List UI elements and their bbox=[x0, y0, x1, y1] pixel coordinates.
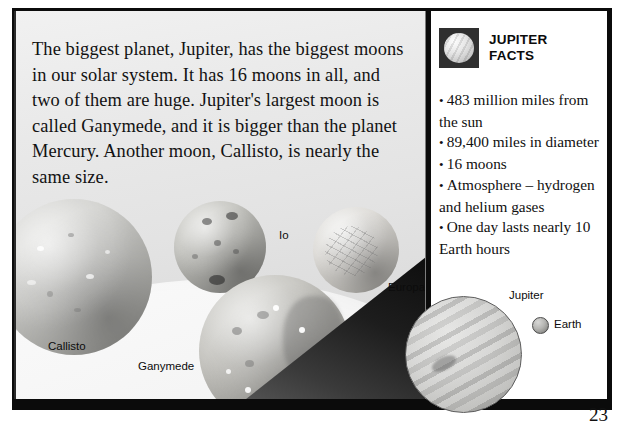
bright-crater bbox=[299, 327, 305, 333]
jupiter-planet-icon bbox=[439, 28, 479, 68]
great-red-spot bbox=[430, 352, 459, 375]
list-item: One day lasts nearly 10 Earth hours bbox=[439, 217, 603, 259]
volcano-spot bbox=[233, 249, 239, 254]
facts-header: JUPITER FACTS bbox=[439, 28, 547, 68]
book-page-spread: Jupiter's biggest moons The biggest plan… bbox=[0, 0, 620, 431]
facts-list: 483 million miles from the sun 89,400 mi… bbox=[439, 90, 603, 259]
moons-photo-panel: The biggest planet, Jupiter, has the big… bbox=[14, 11, 426, 399]
cropped-page-title: Jupiter's biggest moons bbox=[0, 0, 620, 7]
facts-title: JUPITER FACTS bbox=[489, 32, 547, 64]
earth-size-comparison-image bbox=[532, 317, 549, 334]
europa-crack-texture bbox=[325, 226, 378, 276]
crater-dark bbox=[245, 360, 254, 367]
jupiter-size-comparison-image bbox=[405, 296, 522, 413]
moon-label-io: Io bbox=[279, 229, 289, 241]
moon-label-europa: Europa bbox=[388, 281, 425, 293]
facts-title-line1: JUPITER bbox=[489, 32, 547, 48]
comparison-label-earth: Earth bbox=[554, 318, 582, 330]
list-item: 89,400 miles in diameter bbox=[439, 132, 603, 154]
list-item: 16 moons bbox=[439, 154, 603, 176]
volcano-spot bbox=[226, 212, 238, 220]
moon-label-callisto: Callisto bbox=[48, 340, 86, 352]
crater-highlight bbox=[37, 246, 44, 251]
jupiter-icon-sphere bbox=[444, 33, 474, 63]
page-number: 23 bbox=[589, 404, 608, 426]
intro-paragraph: The biggest planet, Jupiter, has the big… bbox=[32, 37, 410, 190]
moon-europa-image bbox=[313, 207, 399, 293]
volcano-spot bbox=[202, 218, 212, 225]
moon-label-ganymede: Ganymede bbox=[138, 360, 194, 372]
list-item: 483 million miles from the sun bbox=[439, 90, 603, 132]
volcano-spot bbox=[209, 275, 225, 285]
facts-title-line2: FACTS bbox=[489, 48, 547, 64]
comparison-label-jupiter: Jupiter bbox=[509, 289, 544, 301]
list-item: Atmosphere – hydrogen and helium gases bbox=[439, 175, 603, 217]
